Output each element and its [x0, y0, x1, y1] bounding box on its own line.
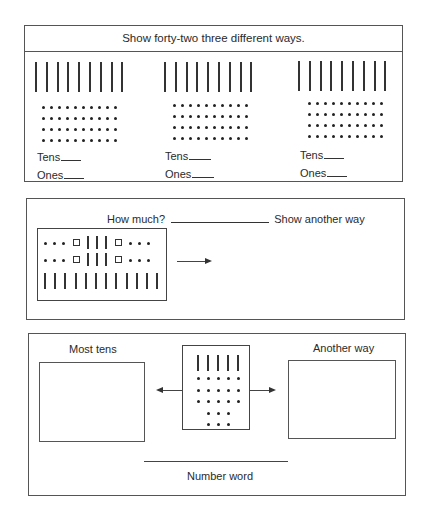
one-dot: [227, 377, 230, 380]
one-dot: [324, 102, 327, 105]
ten-stick: [164, 62, 166, 92]
ten-stick: [207, 62, 209, 92]
center-base-ten-model: [182, 345, 250, 430]
one-dot: [197, 400, 200, 403]
another-way-workspace[interactable]: [222, 229, 397, 309]
one-dot: [316, 135, 319, 138]
ten-stick: [46, 62, 48, 92]
one-dot: [308, 102, 311, 105]
tens-answer-blank-3[interactable]: [324, 158, 344, 159]
one-dot: [372, 124, 375, 127]
ten-stick: [175, 62, 177, 92]
ten-stick: [121, 62, 123, 92]
one-dot: [213, 115, 216, 118]
one-dot: [356, 102, 359, 105]
arrow-left-icon: [156, 387, 163, 393]
one-dot: [245, 137, 248, 140]
one-dot: [364, 113, 367, 116]
ten-stick: [320, 61, 322, 91]
ones-answer-blank-1[interactable]: [64, 178, 84, 179]
ten-stick: [75, 273, 77, 289]
ten-stick: [57, 62, 59, 92]
one-dot: [197, 126, 200, 129]
one-dot: [114, 139, 117, 142]
one-dot: [42, 139, 45, 142]
ten-stick: [136, 273, 138, 289]
one-dot: [82, 139, 85, 142]
most-tens-answer-box[interactable]: [39, 362, 145, 442]
one-dot: [98, 128, 101, 131]
ones-label-3: Ones: [300, 167, 347, 179]
one-dot: [114, 128, 117, 131]
panel-title: Show forty-two three different ways.: [25, 32, 402, 44]
one-dot: [316, 113, 319, 116]
panel-how-much: How much? Show another way: [26, 198, 405, 320]
one-dot: [380, 102, 383, 105]
ten-stick: [78, 62, 80, 92]
how-much-row: How much? Show another way: [107, 213, 365, 225]
ten-stick: [115, 273, 117, 289]
one-dot: [66, 106, 69, 109]
one-dot: [356, 135, 359, 138]
one-dot: [245, 115, 248, 118]
one-dot: [173, 137, 176, 140]
ten-stick: [237, 355, 239, 371]
hundred-square: [115, 256, 122, 263]
one-dot: [147, 259, 150, 262]
one-dot: [66, 139, 69, 142]
ones-answer-blank-2[interactable]: [192, 177, 214, 178]
ten-stick: [352, 61, 354, 91]
tens-answer-blank-2[interactable]: [189, 159, 211, 160]
one-dot: [98, 139, 101, 142]
one-dot: [53, 242, 56, 245]
ones-label-1: Ones: [37, 169, 84, 181]
one-dot: [332, 113, 335, 116]
one-dot: [197, 137, 200, 140]
one-dot: [58, 128, 61, 131]
one-dot: [308, 113, 311, 116]
one-dot: [348, 102, 351, 105]
one-dot: [205, 137, 208, 140]
ten-stick: [374, 61, 376, 91]
one-dot: [213, 137, 216, 140]
ten-stick: [126, 273, 128, 289]
one-dot: [189, 104, 192, 107]
one-dot: [213, 104, 216, 107]
one-dot: [364, 124, 367, 127]
ones-answer-blank-3[interactable]: [327, 176, 347, 177]
one-dot: [114, 117, 117, 120]
one-dot: [82, 117, 85, 120]
ten-stick: [35, 62, 37, 92]
one-dot: [42, 106, 45, 109]
one-dot: [181, 126, 184, 129]
one-dot: [332, 102, 335, 105]
arrow-right-shaft-2: [250, 390, 270, 391]
tens-answer-blank-1[interactable]: [61, 160, 81, 161]
ten-stick: [54, 273, 56, 289]
one-dot: [205, 126, 208, 129]
ten-stick: [87, 236, 89, 249]
one-dot: [221, 104, 224, 107]
ten-stick: [309, 61, 311, 91]
panel-most-tens: Most tens Another way Number word: [28, 333, 406, 496]
one-dot: [245, 104, 248, 107]
one-dot: [308, 124, 311, 127]
one-dot: [332, 124, 335, 127]
how-much-answer-blank[interactable]: [171, 222, 269, 223]
one-dot: [62, 242, 65, 245]
one-dot: [147, 242, 150, 245]
another-way-answer-box[interactable]: [288, 360, 396, 439]
one-dot: [82, 106, 85, 109]
one-dot: [372, 102, 375, 105]
ten-stick: [105, 253, 107, 266]
number-word-answer-line[interactable]: [144, 461, 288, 462]
show-another-way-prompt: Show another way: [274, 213, 365, 225]
one-dot: [189, 126, 192, 129]
ten-stick: [218, 62, 220, 92]
one-dot: [227, 400, 230, 403]
tens-label-3: Tens: [300, 149, 344, 161]
ten-stick: [95, 273, 97, 289]
one-dot: [207, 400, 210, 403]
one-dot: [74, 128, 77, 131]
one-dot: [58, 106, 61, 109]
